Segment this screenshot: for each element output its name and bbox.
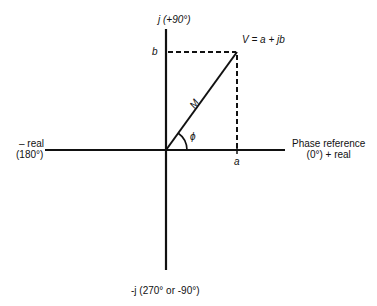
vector-label: V = a + jb bbox=[242, 34, 285, 45]
pos-real-label: Phase reference (0°) + real bbox=[292, 138, 365, 160]
imag-component-label: b bbox=[152, 46, 158, 57]
real-component-label: a bbox=[234, 156, 240, 167]
neg-real-label: – real (180°) bbox=[16, 138, 44, 160]
angle-label: ϕ bbox=[190, 131, 196, 142]
phasor-vector bbox=[166, 52, 237, 150]
neg-imag-label: -j (270° or -90°) bbox=[131, 285, 200, 296]
pos-imag-label: j (+90°) bbox=[158, 14, 191, 25]
angle-arc bbox=[178, 133, 187, 150]
